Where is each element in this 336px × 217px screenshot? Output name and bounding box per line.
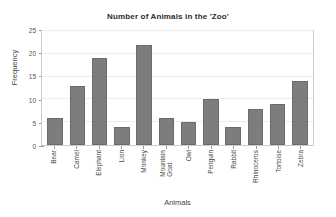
bar-slot	[244, 31, 266, 145]
x-tick	[166, 146, 167, 149]
y-tick-label: 15	[29, 73, 36, 80]
x-tick	[278, 146, 279, 149]
x-tick	[233, 146, 234, 149]
y-tick-label: 25	[29, 27, 36, 34]
x-tick-label: Penguin	[207, 150, 214, 174]
x-label-slot: Zebra	[290, 150, 312, 196]
bar-slot	[289, 31, 311, 145]
y-tick-label: 20	[29, 50, 36, 57]
x-axis-tick-labels: BearCamelElephantLionMonkeyMountain Goat…	[41, 150, 314, 196]
x-label-slot: Penguin	[200, 150, 222, 196]
bar-slot	[44, 31, 66, 145]
x-tick-label: Zebra	[297, 150, 304, 167]
x-tick-label: Bear	[50, 150, 57, 164]
y-axis-tick-labels: 0510152025	[18, 30, 38, 146]
bar-slot	[155, 31, 177, 145]
bar-slot	[66, 31, 88, 145]
x-label-slot: Bear	[43, 150, 65, 196]
plot-area	[41, 30, 314, 146]
x-tick	[300, 146, 301, 149]
x-tick-label: Monkey	[140, 150, 147, 173]
x-tick-label: Elephant	[95, 150, 102, 176]
x-tick	[54, 146, 55, 149]
x-tick	[256, 146, 257, 149]
x-tick	[143, 146, 144, 149]
x-tick-label: Rabbit	[230, 150, 237, 169]
x-label-slot: Monkey	[133, 150, 155, 196]
bar-slot	[222, 31, 244, 145]
x-label-slot: Owl	[178, 150, 200, 196]
bar[interactable]	[248, 109, 264, 145]
x-tick	[121, 146, 122, 149]
bar-slot	[200, 31, 222, 145]
bar[interactable]	[181, 122, 197, 145]
x-label-slot: Lion	[110, 150, 132, 196]
x-tick-label: Camel	[73, 150, 80, 169]
x-tick-label: Rhinoceros	[252, 150, 259, 183]
bar[interactable]	[159, 118, 175, 145]
bar-slot	[89, 31, 111, 145]
x-label-slot: Elephant	[88, 150, 110, 196]
x-label-slot: Rhinoceros	[245, 150, 267, 196]
bar-slot	[133, 31, 155, 145]
bar-slot	[111, 31, 133, 145]
y-tick-label: 10	[29, 96, 36, 103]
x-tick-label: Mountain Goat	[159, 150, 174, 177]
bar-slot	[267, 31, 289, 145]
x-tick-label: Lion	[118, 150, 125, 162]
bar-slot	[178, 31, 200, 145]
x-tick	[76, 146, 77, 149]
bar[interactable]	[203, 99, 219, 145]
bar[interactable]	[225, 127, 241, 145]
x-tick-label: Owl	[185, 150, 192, 161]
bar[interactable]	[270, 104, 286, 145]
x-label-slot: Mountain Goat	[155, 150, 177, 196]
bar[interactable]	[92, 58, 108, 145]
x-label-slot: Tortoise	[267, 150, 289, 196]
bar-chart-figure: Number of Animals in the 'Zoo' Frequency…	[0, 0, 336, 217]
x-axis-title: Animals	[41, 198, 314, 207]
bar[interactable]	[136, 45, 152, 145]
x-tick	[211, 146, 212, 149]
chart-title: Number of Animals in the 'Zoo'	[0, 12, 336, 21]
x-tick	[99, 146, 100, 149]
bar[interactable]	[70, 86, 86, 145]
x-label-slot: Camel	[65, 150, 87, 196]
x-label-slot: Rabbit	[222, 150, 244, 196]
bar[interactable]	[47, 118, 63, 145]
bar[interactable]	[292, 81, 308, 145]
bar-series	[42, 31, 313, 145]
bar[interactable]	[114, 127, 130, 145]
x-tick-label: Tortoise	[275, 150, 282, 173]
x-tick	[188, 146, 189, 149]
